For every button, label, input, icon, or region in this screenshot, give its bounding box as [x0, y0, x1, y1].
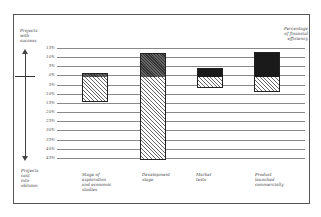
- right-axis-label: Percentage of financial efficiency: [284, 26, 308, 41]
- gridline: [57, 140, 305, 141]
- left-axis-top-label: Projects with success: [20, 28, 37, 43]
- arrow-up-icon: [22, 49, 28, 54]
- bar-success-segment: [255, 53, 279, 77]
- tick-label: 15%: [37, 45, 55, 50]
- category-label-development: Development stage: [142, 172, 170, 182]
- tick-label: 0%: [37, 72, 55, 77]
- left-axis-bottom-label: Projects cast into oblivion: [21, 168, 38, 188]
- bar-failure-segment: [83, 77, 107, 101]
- category-label-market-tests: Market tests: [196, 172, 211, 182]
- gridline: [57, 149, 305, 150]
- gridline: [57, 48, 305, 49]
- tick-label: 15%: [37, 100, 55, 105]
- bar-failure-segment: [198, 77, 222, 87]
- bar-development: [140, 53, 166, 160]
- zero-divider: [15, 76, 35, 77]
- bar-exploration: [82, 73, 108, 102]
- bar-failure-segment: [141, 77, 165, 159]
- gridline: [57, 158, 305, 159]
- bar-market-tests: [197, 68, 223, 88]
- tick-label: 40%: [37, 146, 55, 151]
- gridline: [57, 130, 305, 131]
- tick-label: 30%: [37, 127, 55, 132]
- label-line: success: [20, 38, 37, 43]
- bar-success-segment: [141, 54, 165, 77]
- tick-label: 35%: [37, 137, 55, 142]
- gridline: [57, 103, 305, 104]
- tick-label: 45%: [37, 155, 55, 160]
- tick-label: 5%: [37, 63, 55, 68]
- tick-label: 10%: [37, 54, 55, 59]
- tick-label: 10%: [37, 91, 55, 96]
- tick-label: 5%: [37, 82, 55, 87]
- bar-product-launched: [254, 52, 280, 92]
- label-line: studies: [82, 187, 111, 192]
- tick-label: 25%: [37, 118, 55, 123]
- label-line: oblivion: [21, 183, 38, 188]
- bar-failure-segment: [255, 77, 279, 91]
- gridline: [57, 121, 305, 122]
- label-line: stage: [142, 177, 170, 182]
- label-line: commercially: [255, 182, 284, 187]
- tick-label: 20%: [37, 109, 55, 114]
- gridline: [57, 112, 305, 113]
- bar-success-segment: [198, 69, 222, 77]
- vertical-axis-line: [25, 53, 26, 157]
- label-line: efficiency: [284, 36, 308, 41]
- category-label-product-launched: Product launched commercially: [255, 172, 284, 187]
- label-line: tests: [196, 177, 211, 182]
- arrow-down-icon: [22, 156, 28, 161]
- category-label-exploration: Stage of exploration and economic studie…: [82, 172, 111, 192]
